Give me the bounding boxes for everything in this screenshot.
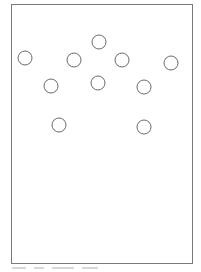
circle-node: [115, 53, 129, 67]
circle-node: [92, 35, 106, 49]
circle-node: [18, 51, 32, 65]
circle-node: [91, 76, 105, 90]
circle-node: [137, 120, 151, 134]
circle-node: [164, 56, 178, 70]
circle-layer: [0, 0, 201, 272]
cut-off-caption: [12, 267, 192, 272]
circle-node: [44, 79, 58, 93]
circle-node: [67, 53, 81, 67]
circle-node: [137, 80, 151, 94]
circle-node: [52, 118, 66, 132]
